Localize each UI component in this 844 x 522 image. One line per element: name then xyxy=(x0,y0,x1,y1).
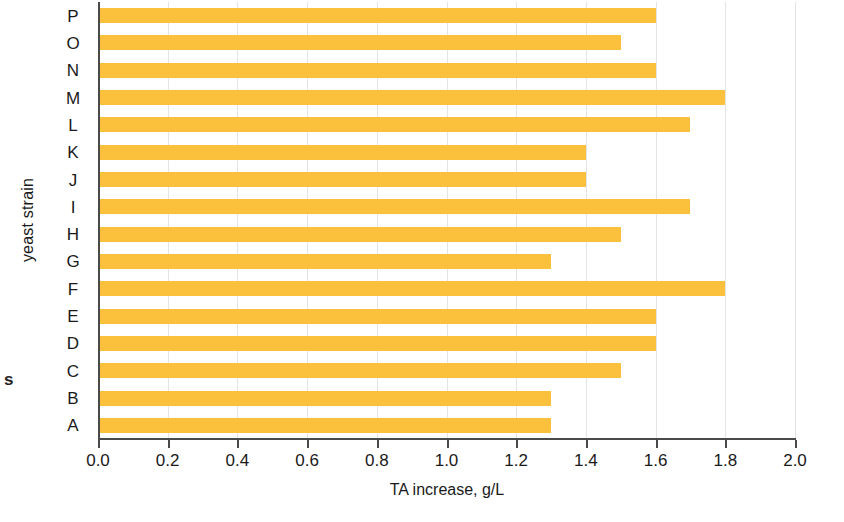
x-axis-tick-mark xyxy=(307,440,309,448)
bar xyxy=(98,309,656,324)
x-axis-tick-mark xyxy=(586,440,588,448)
x-axis-tick-mark xyxy=(168,440,170,448)
y-axis-tick-label: E xyxy=(58,308,88,325)
y-axis-tick-label: O xyxy=(58,35,88,52)
bar xyxy=(98,254,551,269)
y-axis-tick-label: J xyxy=(58,172,88,189)
bar xyxy=(98,227,621,242)
bar xyxy=(98,8,656,23)
x-axis-tick-label: 0.4 xyxy=(207,451,267,471)
x-axis-tick-label: 1.8 xyxy=(695,451,755,471)
x-axis-tick-label: 1.0 xyxy=(417,451,477,471)
y-axis-tick-label: C xyxy=(58,363,88,380)
x-axis-tick-mark xyxy=(656,440,658,448)
bar xyxy=(98,391,551,406)
bar xyxy=(98,363,621,378)
y-axis-tick-label: N xyxy=(58,62,88,79)
plot-area xyxy=(98,2,795,439)
y-axis-tick-label: A xyxy=(58,417,88,434)
y-axis-tick-label: K xyxy=(58,144,88,161)
bar xyxy=(98,281,725,296)
y-axis-title: yeast strain xyxy=(0,0,56,440)
bar xyxy=(98,172,586,187)
y-axis-tick-label: M xyxy=(58,90,88,107)
bar xyxy=(98,117,690,132)
x-axis-tick-label: 0.0 xyxy=(68,451,128,471)
gridline xyxy=(725,2,726,439)
x-axis-tick-label: 1.4 xyxy=(556,451,616,471)
bar xyxy=(98,418,551,433)
x-axis-title: TA increase, g/L xyxy=(98,481,796,499)
bar-chart-figure: s yeast strain ABCDEFGHIJKLMNOP 0.00.20.… xyxy=(0,0,844,522)
x-axis-tick-mark xyxy=(98,440,100,448)
y-axis-line xyxy=(98,2,100,439)
bar xyxy=(98,35,621,50)
gridline xyxy=(656,2,657,439)
x-axis-tick-mark xyxy=(377,440,379,448)
bar xyxy=(98,90,725,105)
bar xyxy=(98,336,656,351)
x-axis-tick-label: 0.2 xyxy=(138,451,198,471)
bar xyxy=(98,63,656,78)
y-axis-tick-label: I xyxy=(58,199,88,216)
x-axis-tick-label: 0.8 xyxy=(347,451,407,471)
x-axis-tick-label: 1.6 xyxy=(626,451,686,471)
x-axis-tick-mark xyxy=(447,440,449,448)
y-axis-tick-label: H xyxy=(58,226,88,243)
x-axis-tick-mark xyxy=(516,440,518,448)
x-axis-tick-label: 2.0 xyxy=(765,451,825,471)
x-axis-tick-mark xyxy=(795,440,797,448)
y-axis-tick-label: G xyxy=(58,253,88,270)
x-axis-tick-mark xyxy=(237,440,239,448)
y-axis-tick-label: P xyxy=(58,8,88,25)
y-axis-tick-label: L xyxy=(58,117,88,134)
gridline xyxy=(795,2,796,439)
x-axis-tick-mark xyxy=(725,440,727,448)
y-axis-tick-label: B xyxy=(58,390,88,407)
y-axis-tick-label: F xyxy=(58,281,88,298)
y-axis-tick-label: D xyxy=(58,335,88,352)
x-axis-tick-label: 1.2 xyxy=(486,451,546,471)
bar xyxy=(98,199,690,214)
x-axis-tick-label: 0.6 xyxy=(277,451,337,471)
bar xyxy=(98,145,586,160)
